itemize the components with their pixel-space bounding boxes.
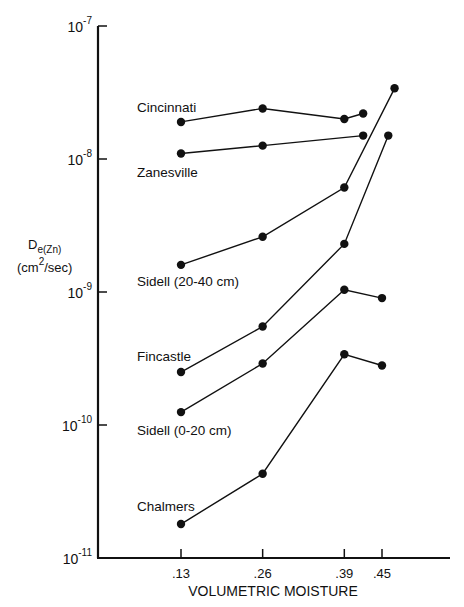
data-point xyxy=(359,109,367,117)
data-point xyxy=(177,118,185,126)
y-tick-label: 10-7 xyxy=(68,15,93,35)
data-point xyxy=(340,115,348,123)
series-line xyxy=(181,354,382,524)
data-point xyxy=(390,84,398,92)
data-point xyxy=(177,408,185,416)
data-point xyxy=(378,361,386,369)
x-tick-label: .26 xyxy=(254,566,272,581)
labels-group: CincinnatiZanesvilleSidell (20-40 cm)Fin… xyxy=(137,100,239,514)
x-tick-label: .13 xyxy=(172,566,190,581)
data-point xyxy=(177,368,185,376)
data-point xyxy=(177,261,185,269)
series-fincastle xyxy=(177,131,393,376)
y-tick-label: 10-10 xyxy=(62,414,92,434)
data-point xyxy=(340,286,348,294)
series-label: Sidell (20-40 cm) xyxy=(137,274,239,289)
y-tick-label: 10-11 xyxy=(63,547,93,567)
series-label: Cincinnati xyxy=(137,100,196,115)
series-line xyxy=(181,136,363,154)
series-label: Fincastle xyxy=(137,349,191,364)
y-axis-units: (cm2/sec) xyxy=(17,256,72,275)
series-label: Chalmers xyxy=(137,499,195,514)
axes: 10-710-810-910-1010-11.13.26.39.45VOLUME… xyxy=(17,15,450,599)
series-line xyxy=(181,108,363,121)
y-axis-label: De(Zn) xyxy=(28,237,61,255)
data-point xyxy=(258,470,266,478)
data-point xyxy=(258,359,266,367)
data-point xyxy=(177,520,185,528)
series-zanesville xyxy=(177,131,368,157)
series-group xyxy=(177,84,399,528)
y-tick-label: 10-9 xyxy=(68,281,93,301)
data-point xyxy=(340,240,348,248)
data-point xyxy=(258,233,266,241)
data-point xyxy=(340,183,348,191)
chart: 10-710-810-910-1010-11.13.26.39.45VOLUME… xyxy=(0,0,464,607)
x-tick-label: .45 xyxy=(373,566,391,581)
series-label: Sidell (0-20 cm) xyxy=(137,423,232,438)
x-tick-label: .39 xyxy=(335,566,353,581)
series-cincinnati xyxy=(177,104,368,126)
data-point xyxy=(258,322,266,330)
data-point xyxy=(384,131,392,139)
series-chalmers xyxy=(177,350,386,528)
data-point xyxy=(359,131,367,139)
data-point xyxy=(177,149,185,157)
data-point xyxy=(378,294,386,302)
data-point xyxy=(258,104,266,112)
y-tick-label: 10-8 xyxy=(68,148,93,168)
data-point xyxy=(340,350,348,358)
series-label: Zanesville xyxy=(137,165,198,180)
x-axis-label: VOLUMETRIC MOISTURE xyxy=(188,583,358,599)
series-sidell-0-20-cm- xyxy=(177,286,386,417)
data-point xyxy=(258,141,266,149)
